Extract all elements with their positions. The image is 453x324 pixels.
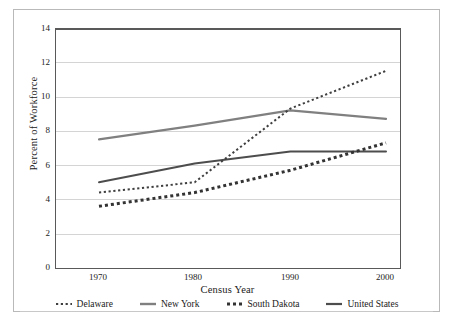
legend-item-united-states[interactable]: United States (325, 299, 398, 309)
legend-swatch-solid-gray-icon (139, 300, 157, 308)
legend-item-new-york[interactable]: New York (139, 299, 200, 309)
legend-label: South Dakota (248, 299, 300, 309)
y-tick-label: 8 (24, 126, 50, 135)
y-tick-label: 12 (24, 58, 50, 67)
legend-swatch-dotted-bold-icon (226, 300, 244, 308)
legend-swatch-dotted-fine-icon (55, 300, 73, 308)
series-layer (56, 28, 401, 268)
y-tick-label: 6 (24, 161, 50, 170)
y-tick-label: 4 (24, 195, 50, 204)
y-axis-tick-labels: 14 12 10 8 6 4 2 0 (24, 0, 50, 324)
y-tick-label: 10 (24, 92, 50, 101)
y-tick-label: 0 (24, 263, 50, 272)
x-tick-label: 1990 (281, 272, 299, 282)
legend-item-delaware[interactable]: Delaware (55, 299, 113, 309)
y-tick-label: 2 (24, 229, 50, 238)
series-line-new-york (99, 110, 386, 139)
legend-swatch-solid-dark-icon (325, 300, 343, 308)
plot-inner (56, 28, 401, 268)
legend-label: Delaware (77, 299, 113, 309)
x-axis-title: Census Year (55, 284, 400, 295)
legend-label: United States (347, 299, 398, 309)
legend-label: New York (161, 299, 200, 309)
series-line-united-states (99, 151, 386, 182)
x-tick-label: 2000 (376, 272, 394, 282)
x-tick-label: 1970 (89, 272, 107, 282)
chart-legend: Delaware New York South Dakota United St… (20, 296, 433, 312)
legend-divider (20, 311, 433, 312)
chart-figure: Percent of Workforce 14 12 10 8 6 4 2 0 (0, 0, 453, 324)
legend-item-south-dakota[interactable]: South Dakota (226, 299, 300, 309)
x-tick-label: 1980 (184, 272, 202, 282)
y-tick-label: 14 (24, 24, 50, 33)
plot-area (55, 28, 401, 269)
